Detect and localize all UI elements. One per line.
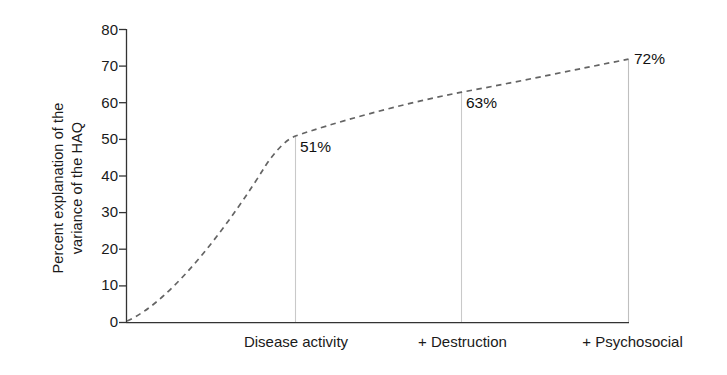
y-axis-ticks [119, 30, 126, 323]
chart-figure: Percent explanation of the variance of t… [0, 0, 727, 375]
data-line-variance-explained [127, 59, 629, 321]
data-label-disease-activity: 51% [300, 139, 331, 155]
data-label-destruction: 63% [466, 95, 497, 111]
x-axis-label-psychosocial: + Psychosocial [545, 333, 720, 350]
data-label-psychosocial: 72% [634, 51, 665, 67]
x-axis-label-disease-activity: Disease activity [211, 333, 381, 350]
x-axis-label-destruction: + Destruction [385, 333, 540, 350]
plot-area [0, 0, 727, 375]
